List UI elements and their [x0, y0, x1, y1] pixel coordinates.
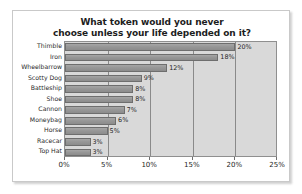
x-tick-mark [276, 157, 277, 160]
x-tick-label: 5% [101, 161, 112, 169]
category-label: Shoe [47, 94, 62, 105]
category-label: Horse [44, 125, 62, 136]
bar[interactable] [65, 96, 133, 104]
category-label: Racecar [37, 136, 62, 147]
bar-row[interactable]: 3% [65, 137, 276, 148]
bar[interactable] [65, 149, 91, 157]
bar-value-label: 5% [110, 127, 120, 136]
chart-title-line-2: choose unless your life depended on it? [21, 28, 283, 39]
bar[interactable] [65, 106, 125, 114]
bar-value-label: 12% [169, 64, 183, 73]
bar-row[interactable]: 6% [65, 116, 276, 127]
x-tick-label: 10% [141, 161, 157, 169]
chart-title: What token would you never choose unless… [21, 17, 283, 39]
plot-wrapper: ThimbleIronWheelbarrowScotty DogBattlesh… [13, 41, 291, 181]
category-axis: ThimbleIronWheelbarrowScotty DogBattlesh… [13, 41, 64, 157]
x-tick-label: 25% [269, 161, 285, 169]
bar-value-label: 3% [93, 148, 103, 157]
bar-value-label: 8% [135, 85, 145, 94]
bar-row[interactable]: 7% [65, 105, 276, 116]
category-label: Iron [50, 52, 62, 63]
bar[interactable] [65, 43, 235, 51]
category-label: Wheelbarrow [21, 62, 62, 73]
category-label: Thimble [37, 41, 62, 52]
category-label: Moneybag [30, 115, 62, 126]
x-tick-label: 15% [184, 161, 200, 169]
bar-row[interactable]: 5% [65, 126, 276, 137]
category-label: Top Hat [39, 146, 62, 157]
bar[interactable] [65, 117, 116, 125]
x-tick-label: 20% [227, 161, 243, 169]
bar-value-label: 9% [144, 74, 154, 83]
x-axis: 0%5%10%15%20%25% [64, 157, 277, 177]
bar-row[interactable]: 8% [65, 84, 276, 95]
bar[interactable] [65, 127, 108, 135]
bar-value-label: 8% [135, 95, 145, 104]
x-tick-mark [234, 157, 235, 160]
x-tick-mark [149, 157, 150, 160]
x-tick-mark [107, 157, 108, 160]
plot-area: 20%18%12%9%8%8%7%6%5%3%3% [64, 41, 277, 157]
bar[interactable] [65, 75, 142, 83]
category-label: Battleship [31, 83, 62, 94]
bar[interactable] [65, 138, 91, 146]
chart-title-line-1: What token would you never [21, 17, 283, 28]
bar-row[interactable]: 3% [65, 147, 276, 157]
category-label: Scotty Dog [28, 73, 62, 84]
bar[interactable] [65, 64, 167, 72]
chart-container: What token would you never choose unless… [12, 10, 290, 182]
bar-value-label: 7% [127, 106, 137, 115]
bar[interactable] [65, 54, 218, 62]
bar-value-label: 18% [220, 53, 234, 62]
bar-row[interactable]: 20% [65, 42, 276, 53]
bar[interactable] [65, 85, 133, 93]
bar-value-label: 6% [118, 116, 128, 125]
bar-row[interactable]: 9% [65, 74, 276, 85]
bar-row[interactable]: 12% [65, 63, 276, 74]
bar-row[interactable]: 18% [65, 53, 276, 64]
x-tick-mark [64, 157, 65, 160]
bar-value-label: 20% [237, 43, 251, 52]
bar-value-label: 3% [93, 138, 103, 147]
bar-row[interactable]: 8% [65, 95, 276, 106]
x-tick-mark [192, 157, 193, 160]
category-label: Cannon [38, 104, 62, 115]
x-tick-label: 0% [58, 161, 69, 169]
